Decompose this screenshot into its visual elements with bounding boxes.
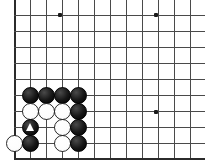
grid-line-horizontal — [14, 47, 205, 48]
stone-black[interactable] — [38, 87, 55, 104]
stone-white[interactable] — [54, 103, 71, 120]
stone-white[interactable] — [54, 135, 71, 152]
stone-white[interactable] — [22, 103, 39, 120]
stone-black-marked[interactable] — [22, 119, 39, 136]
triangle-mark-icon — [26, 123, 34, 131]
grid-line-horizontal — [14, 63, 205, 64]
stone-black[interactable] — [22, 135, 39, 152]
grid-line-horizontal — [14, 158, 205, 160]
stone-black[interactable] — [54, 87, 71, 104]
stone-white[interactable] — [6, 135, 23, 152]
stone-black[interactable] — [22, 87, 39, 104]
grid-line-horizontal — [14, 127, 205, 128]
go-board[interactable] — [0, 0, 205, 167]
grid-line-horizontal — [14, 143, 205, 144]
stone-white[interactable] — [54, 119, 71, 136]
grid-line-horizontal — [14, 31, 205, 32]
star-point — [154, 13, 158, 17]
star-point — [58, 13, 62, 17]
grid-line-horizontal — [14, 15, 205, 16]
grid-line-horizontal — [14, 79, 205, 80]
stone-black[interactable] — [70, 87, 87, 104]
stone-black[interactable] — [70, 103, 87, 120]
stone-black[interactable] — [70, 135, 87, 152]
stone-white[interactable] — [38, 103, 55, 120]
star-point — [154, 110, 158, 114]
stone-black[interactable] — [70, 119, 87, 136]
